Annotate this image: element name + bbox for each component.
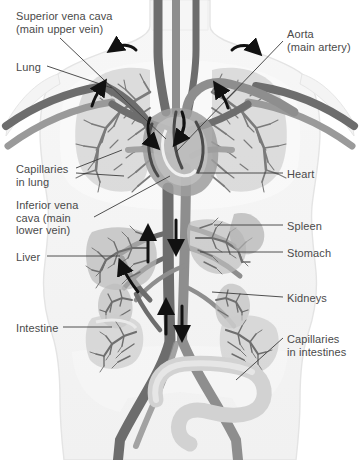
label-intestine: Intestine	[16, 322, 58, 335]
label-spleen: Spleen	[287, 220, 322, 233]
label-stomach: Stomach	[287, 247, 331, 260]
label-inferior-vena-cava: Inferior vena cava (main lower vein)	[16, 199, 78, 237]
label-superior-vena-cava: Superior vena cava (main upper vein)	[16, 10, 113, 35]
liver	[86, 227, 157, 290]
label-heart: Heart	[287, 168, 314, 181]
label-kidneys: Kidneys	[287, 292, 327, 305]
diagram-canvas: Superior vena cava (main upper vein) Lun…	[0, 0, 360, 460]
label-liver: Liver	[16, 251, 40, 264]
label-lung: Lung	[16, 61, 41, 74]
label-capillaries-in-lung: Capillaries in lung	[16, 163, 68, 188]
label-aorta: Aorta (main artery)	[287, 28, 351, 53]
label-capillaries-in-intestines: Capillaries in intestines	[287, 333, 346, 358]
